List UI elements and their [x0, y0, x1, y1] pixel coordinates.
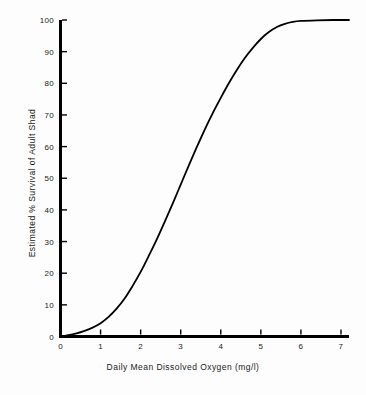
- axes: [59, 20, 349, 337]
- x-tick-label: 1: [98, 342, 103, 351]
- x-tick-label: 5: [258, 342, 263, 351]
- x-tick-label: 6: [299, 342, 304, 351]
- x-axis-ticks: [61, 330, 341, 335]
- x-axis-title: Daily Mean Dissolved Oxygen (mg/l): [0, 362, 366, 372]
- y-axis-title: Estimated % Survival of Adult Shad: [27, 68, 37, 298]
- y-tick-label: 10: [22, 300, 54, 309]
- y-axis-ticks: [62, 20, 67, 337]
- chart-plot-area: [0, 0, 366, 395]
- x-tick-label: 7: [339, 342, 344, 351]
- x-tick-label: 0: [58, 342, 63, 351]
- chart-figure: 0102030405060708090100 01234567 Daily Me…: [0, 0, 366, 395]
- x-tick-label: 2: [138, 342, 143, 351]
- y-tick-label: 100: [22, 16, 54, 25]
- y-tick-label: 90: [22, 47, 54, 56]
- survival-curve: [61, 20, 350, 337]
- x-tick-label: 3: [178, 342, 183, 351]
- x-tick-label: 4: [218, 342, 223, 351]
- y-tick-label: 0: [22, 332, 54, 341]
